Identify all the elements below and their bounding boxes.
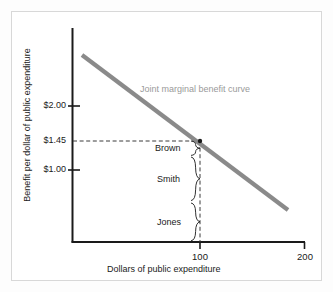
brace-smith <box>191 157 200 201</box>
x-tick-label-200: 200 <box>285 251 325 262</box>
x-axis-title: Dollars of public expenditure <box>107 264 221 274</box>
brace-label-jones: Jones <box>157 217 181 227</box>
y-axis-title: Benefit per dollar of public expenditure <box>22 35 32 215</box>
chart-figure: $2.00 $1.45 $1.00 100 200 Dollars of pub… <box>0 0 333 292</box>
equilibrium-point <box>198 139 202 143</box>
brace-jones <box>191 203 200 241</box>
curve-annotation: Joint marginal benefit curve <box>140 84 250 94</box>
x-tick-label-100: 100 <box>180 251 220 262</box>
brace-label-brown: Brown <box>155 143 181 153</box>
joint-marginal-benefit-curve <box>82 55 288 210</box>
brace-label-smith: Smith <box>157 174 180 184</box>
